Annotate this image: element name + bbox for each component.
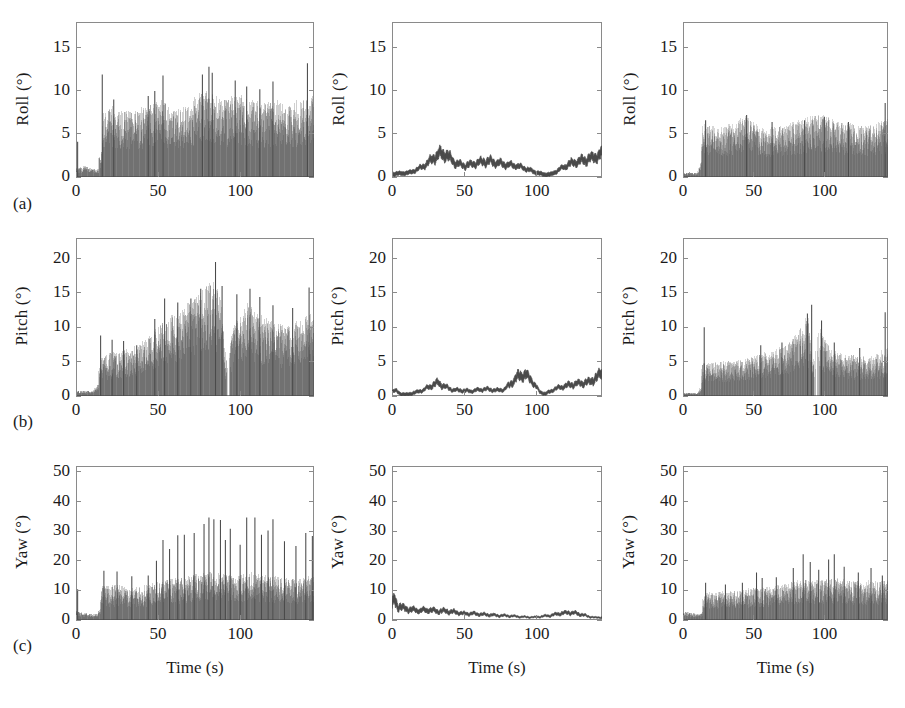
y-tickmark bbox=[683, 560, 688, 561]
y-tick-label: 10 bbox=[639, 316, 677, 336]
x-tickmark bbox=[240, 615, 241, 620]
x-tick-label: 100 bbox=[515, 624, 559, 644]
y-tickmark-right bbox=[597, 501, 602, 502]
y-tick-label: 15 bbox=[639, 282, 677, 302]
y-tickmark-right bbox=[597, 590, 602, 591]
x-tick-label: 0 bbox=[370, 624, 414, 644]
y-tickmark bbox=[392, 90, 397, 91]
y-tick-label: 30 bbox=[32, 520, 70, 540]
x-tick-label: 50 bbox=[442, 181, 486, 201]
y-tickmark-right bbox=[883, 620, 888, 621]
x-tickmark bbox=[392, 172, 393, 177]
y-tickmark bbox=[392, 560, 397, 561]
y-tick-label: 20 bbox=[348, 248, 386, 268]
y-tickmark-right bbox=[309, 90, 314, 91]
y-tickmark-right bbox=[309, 133, 314, 134]
y-tickmark bbox=[683, 590, 688, 591]
plot-panel-yaw-col3: 01020304050050100Yaw (°)Time (s) bbox=[683, 466, 888, 620]
y-tickmark-right bbox=[309, 47, 314, 48]
y-tickmark bbox=[76, 501, 81, 502]
x-tick-label: 100 bbox=[218, 400, 262, 420]
y-tickmark-right bbox=[597, 396, 602, 397]
plot-panel-pitch-col2: 05101520050100Pitch (°) bbox=[392, 238, 602, 396]
y-tickmark-right bbox=[309, 560, 314, 561]
y-tickmark-right bbox=[597, 292, 602, 293]
x-tick-label: 0 bbox=[370, 400, 414, 420]
y-tickmark bbox=[76, 292, 81, 293]
y-tickmark-right bbox=[309, 590, 314, 591]
y-tick-label: 40 bbox=[639, 491, 677, 511]
y-tickmark bbox=[683, 620, 688, 621]
y-tickmark bbox=[76, 471, 81, 472]
y-tick-label: 40 bbox=[348, 491, 386, 511]
y-tickmark-right bbox=[597, 90, 602, 91]
y-tick-label: 10 bbox=[639, 579, 677, 599]
x-tick-label: 0 bbox=[661, 400, 705, 420]
y-axis-label: Roll (°) bbox=[328, 0, 348, 206]
x-tickmark bbox=[683, 391, 684, 396]
y-axis-label: Yaw (°) bbox=[328, 435, 348, 649]
y-tickmark bbox=[392, 501, 397, 502]
x-tick-label: 100 bbox=[802, 624, 846, 644]
plot-trace-roll-col2 bbox=[392, 22, 602, 177]
y-tickmark bbox=[392, 396, 397, 397]
x-tickmark bbox=[464, 391, 465, 396]
y-axis-label: Pitch (°) bbox=[619, 207, 639, 425]
x-tickmark bbox=[158, 615, 159, 620]
x-tick-label: 100 bbox=[802, 181, 846, 201]
y-tick-label: 50 bbox=[32, 461, 70, 481]
x-tickmark bbox=[824, 615, 825, 620]
x-tick-label: 100 bbox=[515, 400, 559, 420]
y-tickmark bbox=[683, 361, 688, 362]
y-tickmark bbox=[76, 47, 81, 48]
y-tickmark bbox=[392, 590, 397, 591]
x-tick-label: 50 bbox=[732, 624, 776, 644]
panel-label-b: (b) bbox=[13, 412, 33, 432]
x-tickmark bbox=[240, 172, 241, 177]
x-tickmark bbox=[158, 172, 159, 177]
y-tickmark-right bbox=[597, 560, 602, 561]
x-tickmark bbox=[240, 391, 241, 396]
panel-label-a: (a) bbox=[13, 194, 32, 214]
y-tick-label: 50 bbox=[639, 461, 677, 481]
y-tick-label: 30 bbox=[348, 520, 386, 540]
y-tick-label: 10 bbox=[348, 316, 386, 336]
x-axis-label: Time (s) bbox=[76, 658, 314, 678]
y-tickmark bbox=[683, 292, 688, 293]
y-tick-label: 5 bbox=[32, 123, 70, 143]
y-tickmark-right bbox=[597, 471, 602, 472]
x-tick-label: 50 bbox=[136, 181, 180, 201]
plot-trace-pitch-col1 bbox=[76, 238, 314, 396]
y-axis-label: Pitch (°) bbox=[328, 207, 348, 425]
x-tick-label: 100 bbox=[515, 181, 559, 201]
x-tick-label: 50 bbox=[136, 400, 180, 420]
y-tickmark-right bbox=[597, 177, 602, 178]
y-tickmark bbox=[683, 501, 688, 502]
y-tickmark-right bbox=[597, 258, 602, 259]
x-tickmark bbox=[683, 615, 684, 620]
x-tick-label: 50 bbox=[732, 181, 776, 201]
y-tick-label: 5 bbox=[32, 351, 70, 371]
y-tick-label: 30 bbox=[639, 520, 677, 540]
y-tickmark-right bbox=[883, 292, 888, 293]
y-tick-label: 15 bbox=[639, 37, 677, 57]
x-tick-label: 50 bbox=[732, 400, 776, 420]
plot-trace-yaw-col1 bbox=[76, 466, 314, 620]
y-tickmark bbox=[392, 258, 397, 259]
y-tick-label: 10 bbox=[348, 579, 386, 599]
y-tick-label: 20 bbox=[639, 550, 677, 570]
plot-trace-roll-col1 bbox=[76, 22, 314, 177]
y-tickmark bbox=[392, 361, 397, 362]
x-tick-label: 0 bbox=[54, 400, 98, 420]
y-tick-label: 20 bbox=[639, 248, 677, 268]
y-tickmark-right bbox=[883, 531, 888, 532]
y-tickmark bbox=[392, 47, 397, 48]
x-tick-label: 100 bbox=[802, 400, 846, 420]
y-tick-label: 10 bbox=[32, 80, 70, 100]
y-tickmark bbox=[76, 258, 81, 259]
x-tickmark bbox=[824, 391, 825, 396]
plot-trace-yaw-col3 bbox=[683, 466, 888, 620]
y-tickmark-right bbox=[597, 361, 602, 362]
y-axis-label: Roll (°) bbox=[619, 0, 639, 206]
y-tickmark-right bbox=[309, 620, 314, 621]
